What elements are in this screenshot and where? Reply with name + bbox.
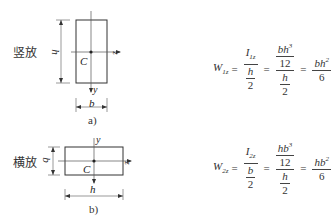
fraction-moment-over-half-h: bh3 12 h 2 (276, 40, 295, 98)
caption-a: a) (88, 114, 97, 126)
centroid-label: C (80, 55, 87, 67)
fraction-I-over-half-h: I1z h 2 (244, 46, 258, 92)
fraction-result: bh2 6 (312, 54, 331, 84)
orientation-label-horizontal: 横放 (13, 153, 37, 170)
cross-section-diagrams (0, 0, 165, 219)
axis-y-label: y (96, 134, 100, 145)
centroid-label: C (83, 163, 90, 175)
axis-z-label: z (111, 51, 121, 55)
dim-label-b: b (89, 97, 95, 109)
dim-label-b: b (41, 157, 53, 163)
lhs: W2z (213, 160, 228, 175)
lhs: W1z (213, 61, 228, 76)
fraction-result: hb2 6 (312, 153, 331, 183)
fraction-I-over-half-b: I2z b 2 (244, 145, 258, 191)
dim-label-h: h (50, 49, 62, 55)
caption-b: b) (89, 203, 98, 215)
dim-label-h: h (90, 183, 96, 195)
section-modulus-formula-1: W1z = I1z h 2 = bh3 12 h 2 = bh2 6 (213, 38, 334, 100)
axis-y-label: y (93, 84, 97, 95)
fraction-moment-over-half-h: hb3 12 h 2 (276, 139, 295, 197)
section-modulus-formula-2: W2z = I2z b 2 = hb3 12 h 2 = hb2 6 (213, 137, 334, 199)
axis-z-label: z (123, 161, 133, 165)
orientation-label-vertical: 竖放 (13, 43, 37, 60)
